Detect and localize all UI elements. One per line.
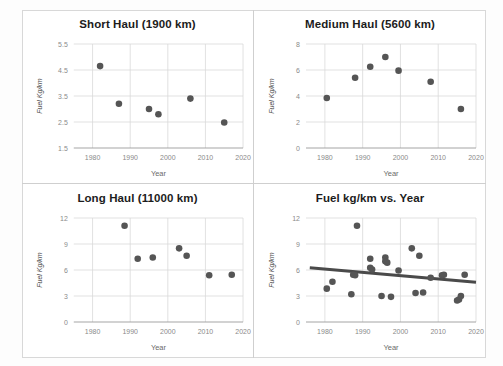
y-tick-label: 6 xyxy=(296,67,300,74)
data-point xyxy=(408,245,415,252)
y-axis-title: Fuel Kg/km xyxy=(268,252,276,288)
data-point xyxy=(97,63,104,70)
data-point xyxy=(323,95,330,102)
x-tick-label: 2000 xyxy=(393,328,409,335)
data-point xyxy=(458,293,465,300)
panel-title-short-haul: Short Haul (1900 km) xyxy=(22,18,253,30)
data-point xyxy=(461,271,468,278)
panel-grid: Short Haul (1900 km) 1.52.53.54.55.51980… xyxy=(22,10,486,358)
data-point xyxy=(352,272,359,279)
y-tick-label: 3 xyxy=(296,293,300,300)
plot-area-fuel-vs-year: 03691219801990200020102020Fuel Kg/kmYear xyxy=(254,210,486,358)
x-axis-title: Year xyxy=(151,169,167,178)
y-axis-title: Fuel Kg/km xyxy=(36,252,44,288)
y-axis-title: Fuel Kg/km xyxy=(268,78,276,114)
data-point xyxy=(427,78,434,85)
plot-area-short-haul: 1.52.53.54.55.519801990200020102020Fuel … xyxy=(22,36,253,184)
y-tick-label: 2.5 xyxy=(58,119,68,126)
x-tick-label: 2010 xyxy=(198,154,214,161)
data-point xyxy=(412,290,419,297)
data-point xyxy=(395,267,402,274)
x-tick-label: 2020 xyxy=(235,328,251,335)
y-tick-label: 0 xyxy=(296,145,300,152)
y-tick-label: 6 xyxy=(296,267,300,274)
x-tick-label: 2010 xyxy=(430,328,446,335)
x-tick-label: 2000 xyxy=(160,154,176,161)
x-tick-label: 2020 xyxy=(468,328,484,335)
y-tick-label: 12 xyxy=(60,215,68,222)
x-tick-label: 1980 xyxy=(317,154,333,161)
y-tick-label: 0 xyxy=(64,319,68,326)
y-tick-label: 1.5 xyxy=(58,145,68,152)
data-point xyxy=(388,294,395,301)
data-point xyxy=(441,271,448,278)
x-tick-label: 1990 xyxy=(122,154,138,161)
x-tick-label: 1980 xyxy=(317,328,333,335)
data-point xyxy=(221,119,228,126)
x-tick-label: 1990 xyxy=(122,328,138,335)
data-point xyxy=(369,266,376,273)
data-point xyxy=(121,223,128,230)
data-point xyxy=(329,278,336,285)
x-tick-label: 2000 xyxy=(160,328,176,335)
x-tick-label: 2010 xyxy=(430,154,446,161)
data-point xyxy=(149,254,156,261)
data-point xyxy=(228,271,235,278)
data-point xyxy=(354,223,361,230)
data-point xyxy=(382,54,389,61)
data-point xyxy=(395,67,402,74)
x-tick-label: 2000 xyxy=(393,154,409,161)
data-point xyxy=(176,245,183,252)
scatter-svg-fuel-vs-year: 03691219801990200020102020Fuel Kg/kmYear xyxy=(254,210,486,358)
data-point xyxy=(427,275,434,282)
y-tick-label: 9 xyxy=(296,241,300,248)
scatter-svg-medium-haul: 0246819801990200020102020Fuel Kg/kmYear xyxy=(254,36,486,184)
x-tick-label: 1990 xyxy=(355,154,371,161)
x-tick-label: 2010 xyxy=(198,328,214,335)
figure-canvas: Short Haul (1900 km) 1.52.53.54.55.51980… xyxy=(0,0,503,366)
x-axis-title: Year xyxy=(383,343,399,352)
data-point xyxy=(134,255,141,262)
plot-area-medium-haul: 0246819801990200020102020Fuel Kg/kmYear xyxy=(254,36,486,184)
x-tick-label: 1980 xyxy=(85,328,101,335)
y-axis-title: Fuel Kg/km xyxy=(36,78,44,114)
y-tick-label: 8 xyxy=(296,41,300,48)
x-tick-label: 1990 xyxy=(355,328,371,335)
data-point xyxy=(155,111,162,118)
y-tick-label: 4 xyxy=(296,93,300,100)
data-point xyxy=(352,75,359,82)
data-point xyxy=(420,289,427,296)
y-tick-label: 2 xyxy=(296,119,300,126)
x-tick-label: 2020 xyxy=(235,154,251,161)
data-point xyxy=(458,106,465,113)
y-tick-label: 3 xyxy=(64,293,68,300)
x-tick-label: 1980 xyxy=(85,154,101,161)
y-tick-label: 5.5 xyxy=(58,41,68,48)
data-point xyxy=(146,106,153,113)
data-point xyxy=(323,285,330,292)
data-point xyxy=(367,63,374,70)
scatter-svg-short-haul: 1.52.53.54.55.519801990200020102020Fuel … xyxy=(22,36,253,184)
panel-fuel-vs-year: Fuel kg/km vs. Year 03691219801990200020… xyxy=(254,184,486,358)
panel-long-haul: Long Haul (11000 km) 0369121980199020002… xyxy=(22,184,254,358)
x-axis-title: Year xyxy=(383,169,399,178)
y-tick-label: 0 xyxy=(296,319,300,326)
data-point xyxy=(348,291,355,298)
x-axis-title: Year xyxy=(151,343,167,352)
x-tick-label: 2020 xyxy=(468,154,484,161)
y-tick-label: 3.5 xyxy=(58,93,68,100)
panel-title-long-haul: Long Haul (11000 km) xyxy=(22,192,253,204)
y-tick-label: 12 xyxy=(292,215,300,222)
y-tick-label: 6 xyxy=(64,267,68,274)
panel-medium-haul: Medium Haul (5600 km) 024681980199020002… xyxy=(254,10,486,184)
data-point xyxy=(384,259,391,266)
data-point xyxy=(378,293,385,300)
panel-short-haul: Short Haul (1900 km) 1.52.53.54.55.51980… xyxy=(22,10,254,184)
data-point xyxy=(187,95,194,102)
data-point xyxy=(206,272,213,279)
panel-title-fuel-vs-year: Fuel kg/km vs. Year xyxy=(254,192,486,204)
scatter-svg-long-haul: 03691219801990200020102020Fuel Kg/kmYear xyxy=(22,210,253,358)
y-tick-label: 9 xyxy=(64,241,68,248)
data-point xyxy=(416,252,423,259)
y-tick-label: 4.5 xyxy=(58,67,68,74)
